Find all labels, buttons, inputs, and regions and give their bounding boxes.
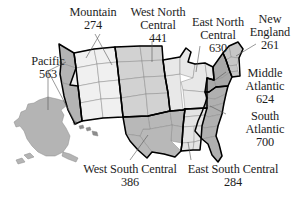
- region-label-new-england: New England 261: [240, 13, 300, 52]
- region-label-south-atlantic-value: 700: [228, 136, 302, 149]
- region-label-east-south-central: East South Central 284: [178, 163, 288, 189]
- region-label-south-atlantic: South Atlantic 700: [228, 110, 302, 149]
- census-division-map-figure: .st{stroke:#8a8a8a;stroke-width:0.5;} .r…: [0, 0, 302, 198]
- region-label-pacific: Pacific 563: [6, 55, 90, 81]
- region-label-pacific-value: 563: [6, 68, 90, 81]
- region-label-middle-atlantic-value: 624: [228, 93, 302, 106]
- region-label-new-england-value: 261: [240, 39, 300, 52]
- region-label-east-south-central-value: 284: [178, 176, 288, 189]
- region-label-west-south-central: West South Central 386: [74, 163, 186, 189]
- region-west-north-central: [115, 46, 170, 117]
- region-label-middle-atlantic: Middle Atlantic 624: [228, 67, 302, 106]
- region-label-west-south-central-value: 386: [74, 176, 186, 189]
